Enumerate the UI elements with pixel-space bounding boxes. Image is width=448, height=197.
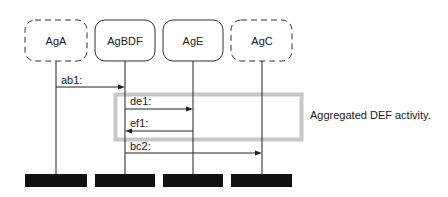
agent-agE: AgE (163, 20, 223, 61)
arrowhead-icon (255, 151, 262, 156)
terminator-agC (231, 174, 292, 187)
agent-agBDF: AgBDF (95, 20, 155, 61)
message-label: ef1: (130, 117, 148, 129)
aggregated-activity-label: Aggregated DEF activity. (310, 109, 431, 121)
terminator-agE (163, 174, 223, 187)
message-de1: de1: (125, 95, 193, 112)
agent-agC: AgC (231, 20, 292, 61)
agent-agA: AgA (25, 20, 87, 61)
message-label: ab1: (61, 74, 82, 86)
arrowhead-icon (186, 107, 193, 112)
agent-label: AgC (251, 35, 272, 47)
arrowhead-icon (125, 129, 132, 134)
message-ab1: ab1: (56, 74, 125, 90)
message-label: bc2: (130, 140, 151, 152)
agent-label: AgBDF (107, 35, 143, 47)
agent-label: AgE (183, 35, 204, 47)
sequence-diagram: AgA AgBDF AgE AgC ab1: de1: ef1: bc2: (0, 0, 448, 197)
terminator-agBDF (95, 174, 155, 187)
message-label: de1: (130, 95, 151, 107)
arrowhead-icon (118, 85, 125, 90)
agent-label: AgA (46, 35, 67, 47)
message-ef1: ef1: (125, 117, 193, 134)
terminator-agA (25, 174, 87, 187)
